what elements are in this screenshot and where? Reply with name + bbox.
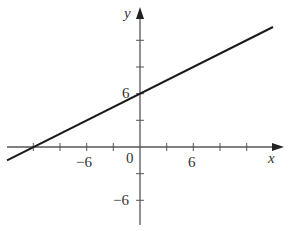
y-axis-label: y <box>122 5 131 21</box>
y-tick-label-6: 6 <box>122 85 130 101</box>
chart: y x 0 −6 6 6 −6 <box>0 0 299 231</box>
x-axis-label: x <box>267 150 275 166</box>
x-tick-label-neg6: −6 <box>76 154 92 170</box>
plot-area: y x 0 −6 6 6 −6 <box>0 0 299 231</box>
origin-label: 0 <box>126 150 134 166</box>
y-axis-arrow-icon <box>136 7 144 19</box>
y-tick-label-neg6: −6 <box>113 192 129 208</box>
x-tick-label-6: 6 <box>188 154 196 170</box>
